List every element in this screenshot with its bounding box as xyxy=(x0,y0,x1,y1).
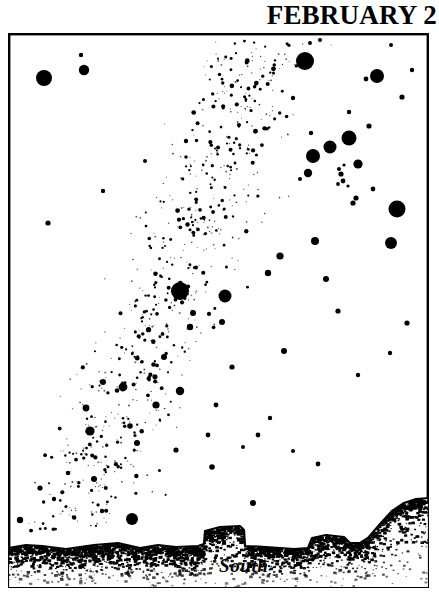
page-title: FEBRUARY 2 xyxy=(0,0,439,30)
sky-chart-frame xyxy=(8,33,429,588)
chart-border xyxy=(9,34,428,587)
star-chart-page: FEBRUARY 2 South xyxy=(0,0,439,603)
horizon-direction-label: South xyxy=(219,556,268,576)
sky-map xyxy=(8,33,429,588)
